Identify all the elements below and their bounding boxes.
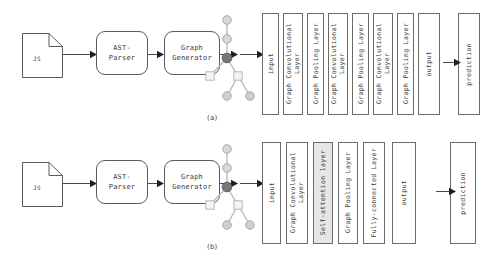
network-layer-8[interactable]: prediction — [458, 13, 480, 115]
figure-canvas: JS AST- Parser Graph Generator — [0, 0, 492, 258]
network-layer-label: Graph Convolutional Layer — [285, 23, 301, 104]
network-layer-label: prediction — [459, 172, 467, 215]
ast-parser-label: AST- Parser — [109, 43, 136, 63]
arrow-output-to-prediction-b — [436, 187, 456, 196]
network-layer-7[interactable]: output — [418, 13, 440, 115]
arrow-parser-to-generator — [148, 50, 164, 59]
network-layer-label: output — [425, 51, 433, 77]
arrow-parser-to-generator — [148, 179, 164, 188]
subfigure-caption-b: (b) — [207, 243, 218, 251]
network-layer-2[interactable]: Graph Pooling Layer — [307, 13, 324, 115]
network-layer-1[interactable]: Graph Convolutional Layer — [286, 142, 308, 244]
network-layer-0[interactable]: input — [262, 142, 281, 244]
document-icon: JS — [22, 162, 63, 207]
figure-row-b: JS AST- Parser Graph Generator — [0, 129, 492, 258]
document-icon: JS — [22, 33, 63, 78]
document-icon-label: JS — [33, 55, 41, 62]
arrow-doc-to-parser — [63, 179, 97, 188]
network-layer-label: input — [268, 182, 276, 203]
network-layer-label: Graph Convolutional Layer — [289, 152, 305, 233]
arrow-graph-to-network — [240, 50, 264, 59]
ast-parser-box[interactable]: AST- Parser — [96, 31, 148, 75]
subfigure-caption-a: (a) — [207, 114, 217, 122]
network-layer-6[interactable]: Graph Pooling Layer — [397, 13, 414, 115]
network-layer-label: Graph Pooling Layer — [312, 23, 320, 104]
ast-parser-label: AST- Parser — [109, 172, 136, 192]
network-layer-label: output — [400, 180, 408, 206]
network-layer-label: Self-attention layer — [319, 150, 327, 235]
network-layer-label: Graph Pooling Layer — [357, 23, 365, 104]
arrow-doc-to-parser — [63, 50, 97, 59]
network-layer-4[interactable]: Fully-connected Layer — [363, 142, 385, 244]
network-layer-0[interactable]: input — [262, 13, 279, 115]
network-layer-label: Graph Convolutional Layer — [375, 23, 391, 104]
network-layer-label: Fully-connected Layer — [370, 148, 378, 238]
network-layer-5[interactable]: output — [392, 142, 416, 244]
network-layer-label: Graph Convolutional Layer — [330, 23, 346, 104]
network-layer-label: input — [267, 53, 275, 74]
network-layer-label: prediction — [465, 43, 473, 86]
network-layer-3[interactable]: Graph Convolutional Layer — [328, 13, 348, 115]
network-layer-1[interactable]: Graph Convolutional Layer — [283, 13, 303, 115]
document-icon-label: JS — [33, 184, 41, 191]
network-layer-4[interactable]: Graph Pooling Layer — [352, 13, 369, 115]
ast-parser-box[interactable]: AST- Parser — [96, 160, 148, 204]
network-layer-label: Graph Pooling Layer — [402, 23, 410, 104]
network-layer-2[interactable]: Self-attention layer — [313, 142, 333, 244]
network-layer-3[interactable]: Graph Pooling Layer — [338, 142, 358, 244]
arrow-output-to-prediction-a — [443, 58, 461, 67]
figure-row-a: JS AST- Parser Graph Generator — [0, 0, 492, 129]
arrow-graph-to-network — [240, 179, 264, 188]
network-layer-label: Graph Pooling Layer — [344, 152, 352, 233]
network-layer-5[interactable]: Graph Convolutional Layer — [373, 13, 393, 115]
